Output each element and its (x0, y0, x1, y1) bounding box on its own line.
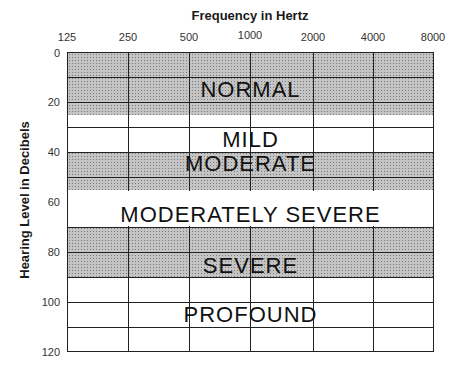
y-axis-label: Hearing Level in Decibels (17, 121, 32, 279)
audiogram-plot: NORMAL MILD MODERATE MODERATELY SEVERE S… (67, 52, 434, 352)
y-tick-100: 100 (36, 296, 60, 308)
x-tick-250: 250 (119, 31, 137, 43)
y-tick-120: 120 (36, 346, 60, 358)
x-tick-1000: 1000 (238, 29, 262, 41)
x-tick-125: 125 (58, 31, 76, 43)
y-tick-0: 0 (36, 47, 60, 59)
x-tick-8000: 8000 (421, 31, 445, 43)
category-mild: MILD (68, 129, 433, 151)
category-normal: NORMAL (68, 79, 433, 101)
y-tick-40: 40 (36, 146, 60, 158)
category-moderate: MODERATE (68, 153, 433, 175)
x-tick-4000: 4000 (361, 31, 385, 43)
category-profound: PROFOUND (68, 304, 433, 326)
chart-title: Frequency in Hertz (0, 8, 457, 23)
category-moderately-severe: MODERATELY SEVERE (68, 204, 433, 226)
y-tick-80: 80 (36, 246, 60, 258)
y-tick-60: 60 (36, 196, 60, 208)
y-tick-20: 20 (36, 96, 60, 108)
category-severe: SEVERE (68, 255, 433, 277)
x-tick-2000: 2000 (301, 31, 325, 43)
x-tick-500: 500 (180, 31, 198, 43)
